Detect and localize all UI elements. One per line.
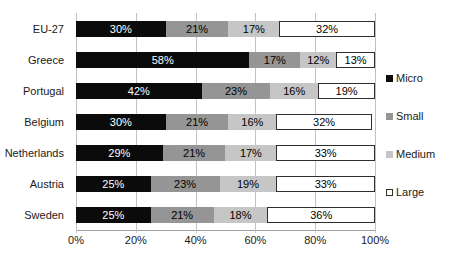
category-label: Austria (0, 168, 70, 199)
value-label: 33% (315, 178, 337, 190)
bar-segment-small: 21% (166, 21, 229, 37)
value-label: 23% (174, 178, 196, 190)
value-label: 16% (283, 85, 305, 97)
value-label: 21% (186, 23, 208, 35)
category-label: Greece (0, 44, 70, 75)
value-label: 12% (307, 54, 329, 66)
category-label: Sweden (0, 199, 70, 230)
value-label: 17% (240, 147, 262, 159)
value-label: 33% (315, 147, 337, 159)
bar-segment-large: 36% (267, 207, 375, 223)
bar-segment-micro: 30% (76, 21, 166, 37)
bars-layer: 30%21%17%32%58%17%12%13%42%23%16%19%30%2… (76, 13, 375, 230)
stacked-bar: 58%17%12%13% (76, 52, 375, 68)
bar-segment-micro: 25% (76, 207, 151, 223)
bar-segment-large: 33% (276, 145, 375, 161)
bar-segment-small: 23% (151, 176, 220, 192)
bar-segment-medium: 16% (228, 114, 276, 130)
bar-segment-medium: 16% (270, 83, 318, 99)
x-tick-label: 0% (68, 234, 84, 246)
stacked-bar: 30%21%16%32% (76, 114, 375, 130)
bar-row: 42%23%16%19% (76, 75, 375, 106)
bar-segment-small: 23% (202, 83, 271, 99)
value-label: 23% (225, 85, 247, 97)
legend-label: Large (396, 186, 424, 198)
bar-segment-small: 17% (249, 52, 300, 68)
value-label: 21% (171, 209, 193, 221)
bar-segment-micro: 42% (76, 83, 202, 99)
bar-segment-large: 32% (276, 114, 372, 130)
bar-segment-large: 32% (279, 21, 375, 37)
bar-segment-medium: 12% (300, 52, 336, 68)
bar-segment-medium: 19% (220, 176, 277, 192)
legend-label: Micro (396, 72, 423, 84)
category-label: Netherlands (0, 137, 70, 168)
bar-segment-small: 21% (163, 145, 226, 161)
x-tick-label: 80% (304, 234, 326, 246)
legend-label: Medium (396, 148, 435, 160)
bar-segment-small: 21% (151, 207, 214, 223)
value-label: 30% (110, 23, 132, 35)
legend-swatch-medium (386, 151, 393, 158)
stacked-bar: 42%23%16%19% (76, 83, 375, 99)
value-label: 30% (110, 116, 132, 128)
value-label: 19% (237, 178, 259, 190)
legend-item-medium: Medium (386, 148, 435, 160)
legend-item-small: Small (386, 110, 435, 122)
bar-segment-large: 19% (318, 83, 375, 99)
value-label: 25% (102, 209, 124, 221)
bar-row: 25%23%19%33% (76, 168, 375, 199)
x-tick-label: 100% (361, 234, 389, 246)
bar-segment-micro: 58% (76, 52, 249, 68)
plot-area: 30%21%17%32%58%17%12%13%42%23%16%19%30%2… (76, 13, 375, 231)
value-label: 16% (241, 116, 263, 128)
bar-row: 30%21%16%32% (76, 106, 375, 137)
legend: MicroSmallMediumLarge (386, 72, 435, 198)
stacked-bar: 29%21%17%33% (76, 145, 375, 161)
stacked-bar: 30%21%17%32% (76, 21, 375, 37)
value-label: 58% (152, 54, 174, 66)
value-label: 17% (243, 23, 265, 35)
bar-segment-medium: 18% (214, 207, 268, 223)
legend-label: Small (396, 110, 424, 122)
value-label: 13% (345, 54, 367, 66)
x-tick-label: 60% (244, 234, 266, 246)
value-label: 32% (313, 116, 335, 128)
bar-segment-medium: 17% (225, 145, 276, 161)
bar-segment-medium: 17% (228, 21, 279, 37)
legend-item-micro: Micro (386, 72, 435, 84)
bar-row: 25%21%18%36% (76, 199, 375, 230)
bar-row: 30%21%17%32% (76, 13, 375, 44)
bar-row: 29%21%17%33% (76, 137, 375, 168)
category-label: Belgium (0, 106, 70, 137)
value-label: 17% (264, 54, 286, 66)
value-label: 36% (310, 209, 332, 221)
stacked-bar-chart: EU-27GreecePortugalBelgiumNetherlandsAus… (0, 0, 451, 261)
value-label: 32% (316, 23, 338, 35)
legend-swatch-large (386, 189, 393, 196)
bar-segment-micro: 29% (76, 145, 163, 161)
x-tick-label: 20% (125, 234, 147, 246)
bar-segment-micro: 30% (76, 114, 166, 130)
legend-swatch-small (386, 113, 393, 120)
stacked-bar: 25%21%18%36% (76, 207, 375, 223)
x-tick-label: 40% (185, 234, 207, 246)
bar-segment-large: 13% (336, 52, 375, 68)
legend-item-large: Large (386, 186, 435, 198)
bar-segment-small: 21% (166, 114, 229, 130)
legend-swatch-micro (386, 75, 393, 82)
gridline (375, 13, 376, 233)
stacked-bar: 25%23%19%33% (76, 176, 375, 192)
y-axis-category-labels: EU-27GreecePortugalBelgiumNetherlandsAus… (0, 13, 70, 230)
bar-segment-micro: 25% (76, 176, 151, 192)
category-label: EU-27 (0, 13, 70, 44)
value-label: 29% (108, 147, 130, 159)
value-label: 25% (102, 178, 124, 190)
value-label: 19% (336, 85, 358, 97)
value-label: 21% (183, 147, 205, 159)
category-label: Portugal (0, 75, 70, 106)
bar-segment-large: 33% (276, 176, 375, 192)
value-label: 18% (229, 209, 251, 221)
value-label: 21% (186, 116, 208, 128)
value-label: 42% (128, 85, 150, 97)
